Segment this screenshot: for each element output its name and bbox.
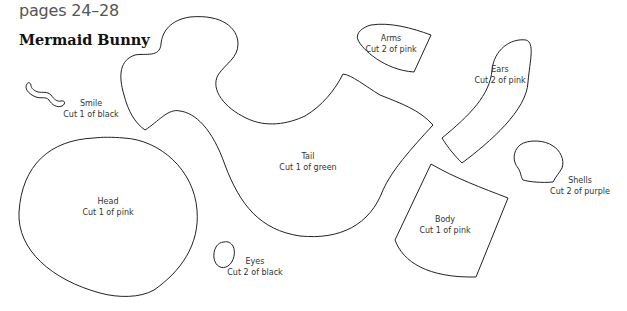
shells-label: Shells Cut 2 of purple: [550, 175, 610, 197]
body-instruction: Cut 1 of pink: [419, 225, 470, 236]
smile-label: Smile Cut 1 of black: [63, 98, 118, 120]
ears-piece: [442, 40, 531, 163]
arms-name: Arms: [365, 33, 416, 44]
tail-instruction: Cut 1 of green: [279, 162, 336, 173]
tail-label: Tail Cut 1 of green: [279, 151, 336, 173]
smile-piece: [26, 83, 65, 107]
ears-label: Ears Cut 2 of pink: [474, 64, 525, 86]
head-name: Head: [82, 196, 133, 207]
tail-name: Tail: [279, 151, 336, 162]
eyes-instruction: Cut 2 of black: [227, 267, 282, 278]
arms-instruction: Cut 2 of pink: [365, 44, 416, 55]
head-instruction: Cut 1 of pink: [82, 207, 133, 218]
ears-instruction: Cut 2 of pink: [474, 75, 525, 86]
eyes-name: Eyes: [227, 256, 282, 267]
head-label: Head Cut 1 of pink: [82, 196, 133, 218]
shells-instruction: Cut 2 of purple: [550, 186, 610, 197]
body-label: Body Cut 1 of pink: [419, 214, 470, 236]
smile-instruction: Cut 1 of black: [63, 109, 118, 120]
shells-name: Shells: [550, 175, 610, 186]
arms-label: Arms Cut 2 of pink: [365, 33, 416, 55]
ears-name: Ears: [474, 64, 525, 75]
smile-name: Smile: [63, 98, 118, 109]
body-name: Body: [419, 214, 470, 225]
eyes-label: Eyes Cut 2 of black: [227, 256, 282, 278]
